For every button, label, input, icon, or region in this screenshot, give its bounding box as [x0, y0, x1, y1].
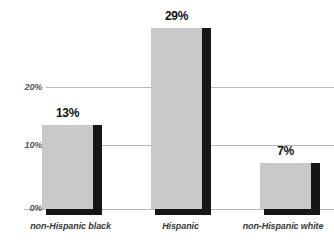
bar-value-label-non-hispanic-white: 7%: [260, 144, 311, 158]
bar-chart: 20% 10% 0% 13% 29% 7% non-Hispanic blac: [0, 0, 334, 244]
category-label-non-hispanic-black: non-Hispanic black: [18, 221, 123, 231]
category-label-non-hispanic-white: non-Hispanic white: [232, 221, 334, 231]
plot-area: 20% 10% 0% 13% 29% 7% non-Hispanic blac: [0, 0, 334, 244]
category-label-hispanic: Hispanic: [128, 221, 233, 231]
bar-face-non-hispanic-white[interactable]: [260, 163, 311, 209]
bar-group-non-hispanic-white[interactable]: 7%: [0, 0, 334, 244]
